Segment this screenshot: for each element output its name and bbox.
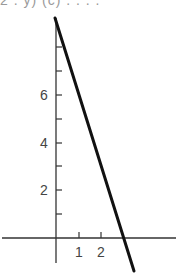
y-tick-label-4: 4 [40, 135, 48, 151]
x-tick-label-2: 2 [97, 244, 105, 260]
y-ticks [56, 47, 62, 214]
data-line [55, 18, 134, 271]
x-ticks [79, 232, 101, 238]
y-tick-label-6: 6 [40, 87, 48, 103]
y-tick-label-2: 2 [40, 182, 48, 198]
x-tick-label-1: 1 [75, 244, 83, 260]
line-chart: 6 4 2 1 2 [0, 0, 178, 277]
